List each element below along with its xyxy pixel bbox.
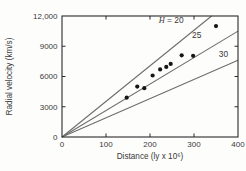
x-tick-label: 400 <box>231 140 245 149</box>
hubble-line-H30-label: 30 <box>219 49 229 59</box>
hubble-line-H20-label: H = 20 <box>158 15 184 25</box>
data-point <box>158 67 162 71</box>
hubble-law-chart: 0100200300400030006000900012,000Distance… <box>0 0 246 171</box>
x-tick-label: 300 <box>187 140 201 149</box>
data-point <box>135 84 139 88</box>
line-label-value: = 20 <box>165 15 184 25</box>
data-point <box>169 62 173 66</box>
hubble-line-H25 <box>62 31 238 137</box>
data-point <box>214 24 218 28</box>
hubble-line-H25-label: 25 <box>192 30 202 40</box>
x-tick-label: 200 <box>143 140 157 149</box>
y-tick-label: 0 <box>53 133 58 142</box>
data-point <box>151 73 155 77</box>
y-tick-label: 9000 <box>40 42 58 51</box>
hubble-law-figure: 0100200300400030006000900012,000Distance… <box>0 0 246 171</box>
x-axis-title: Distance (ly x 10⁶) <box>117 152 184 161</box>
data-point <box>180 53 184 57</box>
y-tick-label: 12,000 <box>33 12 58 21</box>
data-point <box>142 86 146 90</box>
y-axis-title: Radial velocity (km/s) <box>5 37 14 115</box>
y-tick-label: 3000 <box>40 103 58 112</box>
y-tick-label: 6000 <box>40 72 58 81</box>
hubble-line-H30 <box>62 60 238 137</box>
data-point <box>125 96 129 100</box>
data-point <box>191 54 195 58</box>
x-tick-label: 0 <box>60 140 65 149</box>
x-tick-label: 100 <box>99 140 113 149</box>
plot-frame <box>62 16 238 137</box>
data-point <box>164 65 168 69</box>
hubble-line-H20 <box>62 16 212 137</box>
